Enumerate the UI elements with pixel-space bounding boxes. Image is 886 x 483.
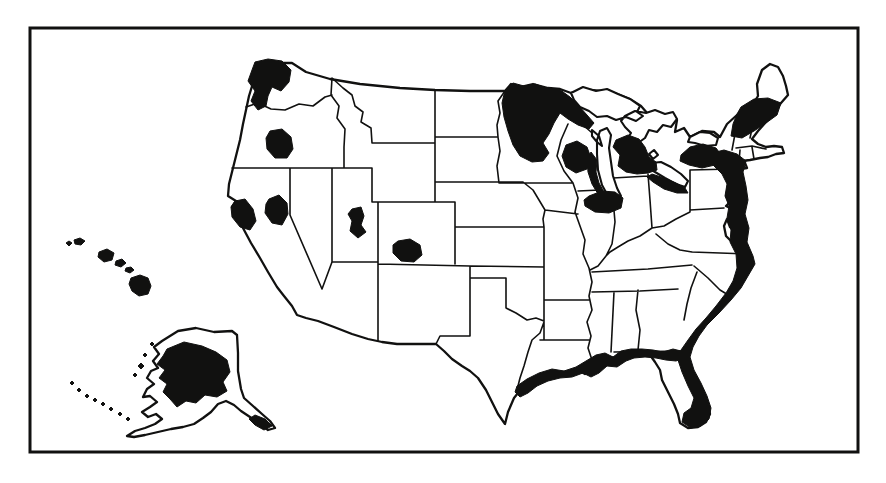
us-map-figure bbox=[0, 0, 886, 483]
scanned-map-page bbox=[0, 0, 886, 483]
